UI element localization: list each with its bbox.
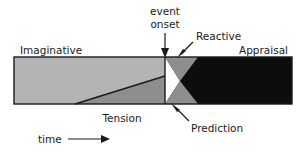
time-axis-arrowhead-icon	[101, 135, 110, 143]
time-axis: time	[38, 133, 110, 145]
time-axis-label: time	[38, 133, 62, 145]
diagram-root: event onset Reactive Prediction Imaginat…	[0, 0, 304, 153]
tension-label: Tension	[101, 112, 141, 124]
reactive-callout: Reactive	[177, 30, 241, 58]
imaginative-label: Imaginative	[20, 44, 82, 56]
event-onset-callout: event onset	[150, 5, 180, 58]
reactive-label: Reactive	[196, 30, 241, 42]
event-onset-label-line1: event	[150, 5, 180, 17]
prediction-callout: Prediction	[171, 103, 243, 134]
region-fills	[14, 57, 292, 104]
appraisal-label: Appraisal	[239, 44, 288, 56]
diagram-canvas: event onset Reactive Prediction Imaginat…	[0, 0, 304, 153]
event-onset-label-line2: onset	[150, 18, 179, 30]
prediction-label: Prediction	[191, 122, 243, 134]
